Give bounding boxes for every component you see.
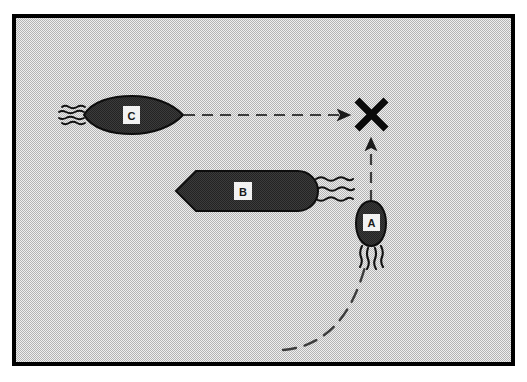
cell-c-label: C (128, 110, 136, 122)
figure-root: C B (0, 0, 527, 382)
cell-b-label: B (239, 186, 247, 198)
diagram-canvas: C B (0, 0, 527, 382)
cell-a-label: A (368, 217, 376, 229)
